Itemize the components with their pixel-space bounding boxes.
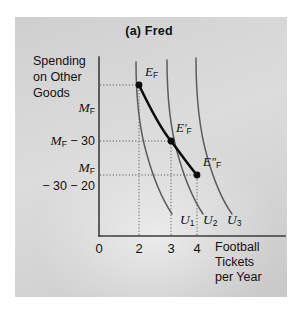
indifference-curve-u2 xyxy=(167,60,203,214)
x-axis-origin-label: 0 xyxy=(90,241,108,256)
y-tick-label-mf: MF xyxy=(38,100,95,116)
curve-label-u3: U3 xyxy=(227,212,241,228)
y-axis-title-line1: Spending xyxy=(33,53,99,69)
y-tick-label-mf-minus-30-minus-20: MF − 30 − 20 xyxy=(26,160,95,194)
equilibrium-point-ef xyxy=(136,82,143,89)
figure-root: (a) Fred Spending on Other Goods MF xyxy=(0,0,298,316)
x-tick-label-2: 2 xyxy=(130,241,148,256)
x-axis-caption-line3: per Year xyxy=(215,270,262,285)
point-label-ef-double-prime: E″F xyxy=(203,154,221,170)
equilibrium-point-ef-prime xyxy=(168,138,175,145)
x-axis-caption-line1: Football xyxy=(215,240,262,255)
indifference-curve-u3 xyxy=(196,58,232,214)
x-tick-label-3: 3 xyxy=(162,241,180,256)
y-axis-title-line2: on Other xyxy=(33,69,99,85)
x-tick-label-4: 4 xyxy=(188,241,206,256)
y-tick-label-mf-minus-30: MF − 30 xyxy=(28,133,95,149)
point-label-ef-prime: E′F xyxy=(176,120,192,136)
y-axis-title: Spending on Other Goods xyxy=(33,53,99,101)
y-axis-title-line3: Goods xyxy=(33,85,99,101)
curve-label-u1: U1 xyxy=(180,212,194,228)
curve-label-u2: U2 xyxy=(203,212,217,228)
x-axis-caption: Football Tickets per Year xyxy=(215,240,262,285)
x-axis-caption-line2: Tickets xyxy=(215,255,262,270)
point-label-ef: EF xyxy=(145,64,158,80)
equilibrium-point-ef-double-prime xyxy=(194,172,201,179)
